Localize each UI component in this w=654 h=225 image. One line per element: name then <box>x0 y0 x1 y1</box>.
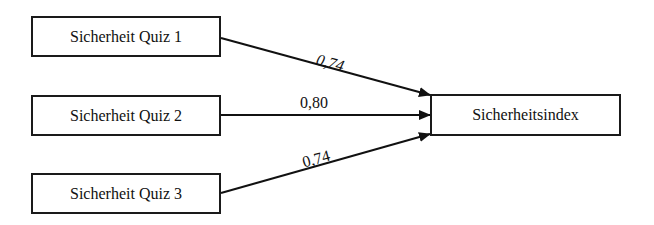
weight-label-quiz1: 0,74 <box>315 51 346 75</box>
node-sicherheit-quiz-2: Sicherheit Quiz 2 <box>31 95 221 136</box>
node-label: Sicherheit Quiz 1 <box>70 28 182 46</box>
node-label: Sicherheit Quiz 2 <box>70 107 182 125</box>
node-sicherheit-quiz-3: Sicherheit Quiz 3 <box>31 173 221 214</box>
node-label: Sicherheitsindex <box>472 106 579 124</box>
node-label: Sicherheit Quiz 3 <box>70 185 182 203</box>
weight-label-quiz3: 0,74 <box>300 147 331 171</box>
weight-label-quiz2: 0,80 <box>300 94 328 111</box>
node-sicherheit-quiz-1: Sicherheit Quiz 1 <box>31 16 221 57</box>
node-sicherheitsindex: Sicherheitsindex <box>430 94 621 136</box>
